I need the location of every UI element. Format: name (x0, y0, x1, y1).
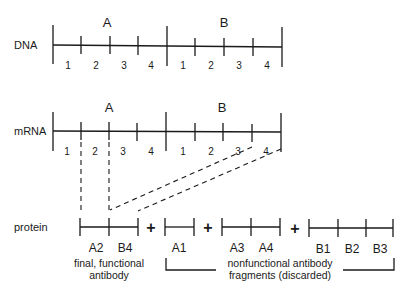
dna-exon-b3: 3 (236, 60, 242, 71)
mrna-exon-b3: 3 (235, 146, 241, 157)
mrna-exon-a2: 2 (92, 146, 98, 157)
segment-a2: A2 (89, 241, 104, 255)
dna-exon-b2: 2 (208, 60, 214, 71)
fragment-b1-b2-b3: B1 B2 B3 (309, 219, 393, 256)
dna-row: DNA A B 1 2 3 4 1 2 3 4 (14, 15, 282, 71)
plus-sign: + (290, 220, 299, 237)
antibody-splicing-diagram: DNA A B 1 2 3 4 1 2 3 4 mRNA A B 1 (0, 0, 410, 298)
mrna-exon-a4: 4 (148, 146, 154, 157)
dna-exon-a1: 1 (65, 60, 71, 71)
protein-row: protein A2 B4 + A1 + A3 A4 + (14, 218, 394, 281)
discard-bracket-left (166, 258, 216, 270)
dna-exon-a2: 2 (93, 60, 99, 71)
mrna-gene-b-label: B (218, 100, 227, 115)
discard-caption-line1: nonfunctional antibody (227, 257, 333, 269)
segment-a4: A4 (259, 241, 274, 255)
mrna-exon-b1: 1 (180, 146, 186, 157)
mrna-exon-a1: 1 (64, 146, 70, 157)
mrna-exon-b4: 4 (263, 146, 269, 157)
segment-a1: A1 (172, 241, 187, 255)
dna-gene-b-label: B (220, 15, 229, 30)
final-antibody-segment: A2 B4 (80, 218, 138, 255)
mrna-exon-a3: 3 (120, 146, 126, 157)
final-antibody-caption-line1: final, functional (74, 257, 144, 269)
segment-b4: B4 (118, 241, 133, 255)
dna-exon-a4: 4 (148, 60, 154, 71)
dashed-line-b4-right (138, 149, 281, 211)
segment-b2: B2 (345, 242, 360, 256)
segment-b1: B1 (316, 242, 331, 256)
mrna-label: mRNA (14, 125, 47, 137)
mrna-strand (53, 131, 281, 132)
fragment-a1: A1 (165, 218, 194, 255)
plus-sign: + (203, 219, 212, 236)
fragment-a3-a4: A3 A4 (222, 218, 280, 255)
protein-label: protein (14, 221, 48, 233)
dna-exon-b1: 1 (180, 60, 186, 71)
dna-exon-a3: 3 (121, 60, 127, 71)
mrna-row: mRNA A B 1 2 3 4 1 2 3 4 (14, 100, 281, 157)
mrna-gene-a-label: A (105, 100, 114, 115)
final-antibody-caption-line2: antibody (89, 269, 129, 281)
dna-exon-b4: 4 (264, 60, 270, 71)
segment-a3: A3 (230, 241, 245, 255)
segment-b3: B3 (373, 242, 388, 256)
dna-label: DNA (14, 39, 38, 51)
dna-gene-a-label: A (103, 15, 112, 30)
discard-caption-line2: fragments (discarded) (229, 269, 331, 281)
discard-bracket-right (343, 258, 394, 270)
mrna-exon-b2: 2 (208, 146, 214, 157)
plus-sign: + (146, 219, 155, 236)
